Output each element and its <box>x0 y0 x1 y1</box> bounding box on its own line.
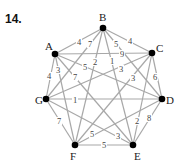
vertex-label-G: G <box>35 94 43 106</box>
edge-weight-D-E: 8 <box>147 113 151 123</box>
edge-weight-A-C: 9 <box>120 49 124 59</box>
vertex-label-C: C <box>156 42 163 54</box>
vertex-label-A: A <box>45 40 53 52</box>
vertex-F <box>72 142 79 149</box>
vertex-G <box>43 96 50 103</box>
vertex-B <box>100 25 107 32</box>
edge-weight-A-D: 5 <box>83 62 87 72</box>
edge-weight-D-F: 5 <box>90 129 94 139</box>
edge-weight-C-D: 6 <box>153 72 157 82</box>
vertex-C <box>149 50 156 57</box>
edge-weight-C-F: 3 <box>131 73 135 83</box>
edge-weight-B-E: 1 <box>110 56 114 66</box>
edge-weight-B-D: 5 <box>114 39 118 49</box>
edge-weight-A-F: 3 <box>56 65 60 75</box>
weighted-graph-diagram: 449675215734332173855ABCDEFG <box>0 0 183 164</box>
edge-weight-C-E: 2 <box>135 116 139 126</box>
edge-A-C <box>55 53 152 54</box>
edge-weight-B-G: 7 <box>88 39 92 49</box>
vertex-label-B: B <box>99 11 106 23</box>
vertex-label-D: D <box>166 94 174 106</box>
vertex-E <box>130 142 137 149</box>
vertex-label-E: E <box>134 150 141 162</box>
edge-C-G <box>46 53 152 99</box>
vertex-D <box>159 96 166 103</box>
edge-weight-G-F: 7 <box>57 116 61 126</box>
edge-weight-A-E: 7 <box>73 72 77 82</box>
edge-weight-G-D: 1 <box>73 95 77 105</box>
edge-weight-B-F: 2 <box>93 57 97 67</box>
edge-weight-F-E: 5 <box>102 140 106 150</box>
edge-weight-G-E: 3 <box>116 131 120 141</box>
edge-weight-C-G: 3 <box>119 64 123 74</box>
vertex-label-F: F <box>70 150 76 162</box>
